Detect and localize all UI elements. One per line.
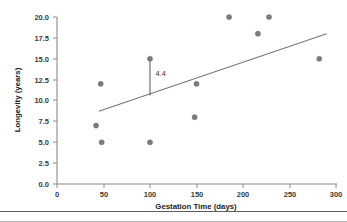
regression-line xyxy=(99,34,327,112)
y-tick-label: 12.5 xyxy=(34,76,49,85)
residual-value-label: 4.4 xyxy=(156,69,166,78)
footer-divider xyxy=(0,211,347,222)
scatter-plot: 20.0 17.5 15.0 12.5 10.0 7.5 5.0 2.5 0.0… xyxy=(0,0,347,222)
y-tick-label: 7.5 xyxy=(39,117,49,126)
data-point xyxy=(147,140,152,145)
x-tick-label: 150 xyxy=(191,190,204,199)
y-tick-label: 10.0 xyxy=(34,96,49,105)
x-tick-label: 300 xyxy=(330,190,343,199)
data-point xyxy=(192,115,197,120)
x-axis-title: Gestation Time (days) xyxy=(155,202,237,211)
data-point xyxy=(98,81,103,86)
x-tick-label: 50 xyxy=(100,190,108,199)
x-axis-tick-labels: 0 50 100 150 200 250 300 xyxy=(55,190,342,199)
data-point xyxy=(194,81,199,86)
y-tick-label: 5.0 xyxy=(39,138,49,147)
data-point xyxy=(93,123,98,128)
y-axis-ticks xyxy=(53,17,57,184)
x-axis-ticks xyxy=(57,184,336,188)
y-axis-title: Longevity (years) xyxy=(13,67,22,132)
x-tick-label: 0 xyxy=(55,190,59,199)
data-point xyxy=(147,56,152,61)
x-tick-label: 200 xyxy=(237,190,250,199)
x-tick-label: 100 xyxy=(144,190,157,199)
y-tick-label: 15.0 xyxy=(34,55,49,64)
x-tick-label: 250 xyxy=(284,190,297,199)
y-axis-tick-labels: 20.0 17.5 15.0 12.5 10.0 7.5 5.0 2.5 0.0 xyxy=(34,13,49,189)
data-point xyxy=(266,14,271,19)
y-tick-label: 20.0 xyxy=(34,13,49,22)
data-point xyxy=(255,31,260,36)
data-point xyxy=(99,140,104,145)
data-point xyxy=(226,14,231,19)
chart-figure: 20.0 17.5 15.0 12.5 10.0 7.5 5.0 2.5 0.0… xyxy=(0,0,347,222)
data-points-group xyxy=(93,14,321,144)
data-point xyxy=(317,56,322,61)
y-tick-label: 2.5 xyxy=(39,159,49,168)
y-tick-label: 17.5 xyxy=(34,34,49,43)
y-tick-label: 0.0 xyxy=(39,180,49,189)
